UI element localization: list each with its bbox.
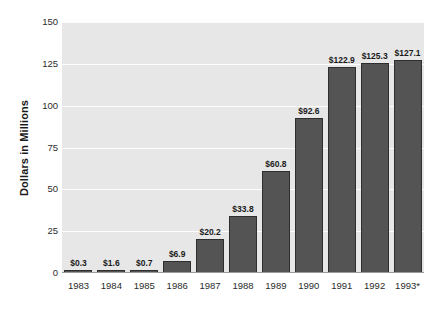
x-axis-line [62,272,424,273]
bar-1987 [196,239,224,273]
y-axis-tick-25: 25 [28,226,58,236]
bar-1993 [394,60,422,273]
bar-1991 [328,67,356,273]
gridline [62,22,424,23]
bar-value-label: $0.7 [120,259,168,268]
bar-1992 [361,63,389,273]
bar-value-label: $92.6 [285,107,333,116]
y-axis-tick-75: 75 [28,143,58,153]
bar-1988 [229,216,257,273]
bar-chart: Dollars in Millions 0255075100125150 $0.… [0,0,438,310]
y-axis-tick-150: 150 [28,17,58,27]
bar-value-label: $60.8 [252,160,300,169]
bar-value-label: $127.1 [384,49,432,58]
x-axis-tick-labels: 1983198419851986198719881989199019911992… [62,280,424,296]
plot-area: $0.3$1.6$0.7$6.9$20.2$33.8$60.8$92.6$122… [62,22,424,273]
x-axis-tick-1993: 1993* [384,280,432,292]
bar-value-label: $33.8 [219,205,267,214]
bar-value-label: $20.2 [186,228,234,237]
bar-1989 [262,171,290,273]
y-axis-tick-125: 125 [28,59,58,69]
bar-value-label: $6.9 [153,250,201,259]
bar-1990 [295,118,323,273]
y-axis-tick-100: 100 [28,101,58,111]
y-axis-tick-50: 50 [28,184,58,194]
y-axis-tick-0: 0 [28,268,58,278]
